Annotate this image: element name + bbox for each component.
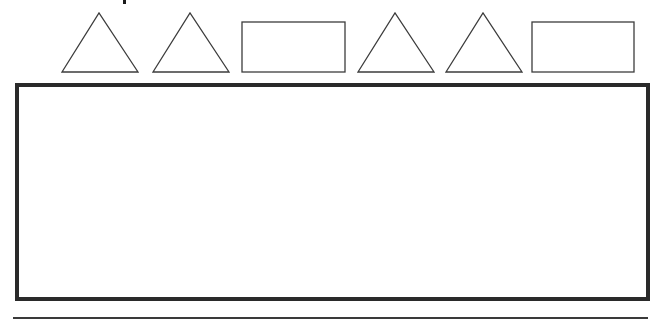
worksheet-page bbox=[0, 0, 657, 320]
rectangle-shape-1 bbox=[242, 22, 345, 72]
triangle-shape-2 bbox=[153, 13, 229, 72]
triangle-shape-3 bbox=[358, 13, 434, 72]
shape-pattern-row bbox=[0, 0, 657, 80]
triangle-shape-4 bbox=[446, 13, 522, 72]
triangle-shape-1 bbox=[62, 13, 138, 72]
writing-line bbox=[13, 317, 648, 319]
answer-box[interactable] bbox=[15, 83, 650, 301]
rectangle-shape-2 bbox=[532, 22, 634, 72]
